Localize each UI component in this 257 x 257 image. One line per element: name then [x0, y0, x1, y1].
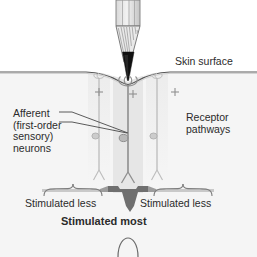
label-afferent-neurons: Afferent (first-order sensory) neurons — [13, 108, 61, 154]
label-stimulated-most: Stimulated most — [61, 216, 147, 228]
label-skin-surface: Skin surface — [175, 56, 233, 68]
pencil-stylus — [116, 0, 140, 81]
label-receptor-pathways: Receptor pathways — [186, 112, 230, 135]
label-stimulated-less-right: Stimulated less — [140, 198, 211, 210]
figure-canvas: Skin surface Afferent (first-order senso… — [0, 0, 257, 257]
label-stimulated-less-left: Stimulated less — [25, 198, 96, 210]
